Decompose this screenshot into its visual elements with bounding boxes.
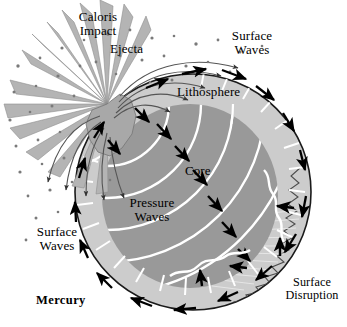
caloris-impact-diagram: Caloris Impact Ejecta Surface Waves Lith… [0,0,347,327]
label-surface-disruption: Surface Disruption [278,276,346,302]
label-ejecta: Ejecta [110,42,143,56]
label-surface-waves-left: Surface Waves [22,225,92,253]
label-caloris-impact: Caloris Impact [60,10,136,38]
label-pressure-waves: Pressure Waves [112,196,192,224]
label-core: Core [185,164,211,178]
label-surface-waves-top: Surface Waves [215,29,289,57]
label-lithosphere: Lithosphere [177,85,240,99]
label-mercury: Mercury [36,294,86,307]
